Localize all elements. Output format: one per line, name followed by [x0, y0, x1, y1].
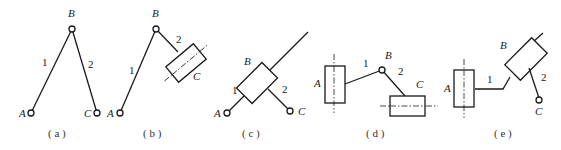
label-link-1: 1 — [42, 56, 48, 68]
label-b: B — [152, 7, 159, 19]
label-a: A — [213, 107, 221, 119]
label-a: A — [443, 82, 451, 94]
joint-c — [287, 108, 293, 114]
label-b: B — [500, 39, 507, 51]
joint-b — [379, 67, 385, 73]
label-a: A — [106, 107, 114, 119]
label-c: C — [535, 105, 543, 117]
label-b: B — [244, 55, 251, 67]
label-c: C — [84, 107, 92, 119]
label-c: C — [416, 78, 424, 90]
label-link-2: 2 — [541, 71, 547, 83]
label-b: B — [68, 7, 75, 19]
caption-b: ( b ) — [143, 127, 162, 140]
caption-e: ( e ) — [494, 127, 512, 140]
link-2 — [72, 29, 97, 113]
panel-c: B A C 1 2 ( c ) — [213, 32, 308, 140]
label-link-2: 2 — [398, 65, 404, 77]
link-1 — [475, 77, 510, 89]
panel-e: B A C 1 2 ( e ) — [443, 33, 547, 140]
joint-c — [94, 110, 100, 116]
link-2 — [156, 29, 178, 52]
link-1 — [31, 29, 72, 113]
slider-a — [325, 66, 345, 103]
joint-a — [224, 110, 230, 116]
link-1 — [345, 70, 382, 84]
caption-d: ( d ) — [366, 127, 385, 140]
label-a: A — [313, 77, 321, 89]
label-link-2: 2 — [282, 83, 288, 95]
label-link-2: 2 — [176, 33, 182, 45]
linkage-diagram: B A C 1 2 ( a ) B A C 1 2 ( b ) B A — [0, 0, 561, 150]
slider-c — [158, 37, 214, 88]
joint-b — [69, 26, 75, 32]
panel-a: B A C 1 2 ( a ) — [18, 7, 100, 140]
link-2 — [529, 68, 539, 98]
joint-a — [28, 110, 34, 116]
label-b: B — [385, 49, 392, 61]
panel-b: B A C 1 2 ( b ) — [106, 7, 214, 140]
joint-a — [117, 110, 123, 116]
label-link-1: 1 — [487, 73, 493, 85]
label-link-1: 1 — [232, 84, 238, 96]
label-a: A — [18, 107, 26, 119]
caption-a: ( a ) — [48, 127, 66, 140]
caption-c: ( c ) — [242, 127, 260, 140]
joint-c — [536, 97, 542, 103]
label-link-2: 2 — [88, 58, 94, 70]
label-link-1: 1 — [129, 64, 135, 76]
link-1 — [120, 29, 156, 113]
label-c: C — [298, 105, 306, 117]
label-c: C — [193, 70, 201, 82]
joint-b — [153, 26, 159, 32]
panel-d: B A C 1 2 ( d ) — [313, 49, 438, 140]
label-link-1: 1 — [363, 57, 369, 69]
